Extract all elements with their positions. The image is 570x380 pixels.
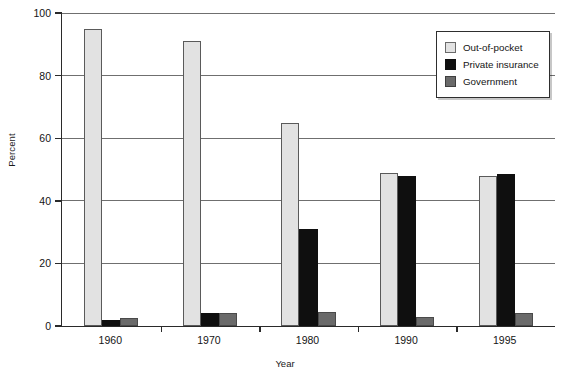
legend-item: Government: [445, 73, 539, 90]
x-axis-tick-label: 1980: [296, 334, 319, 346]
y-axis-tick-label: 100: [33, 7, 51, 19]
bar-1995-out-of-pocket: [479, 176, 497, 326]
y-axis-tick: [55, 138, 62, 139]
x-axis-tick: [259, 326, 260, 332]
y-axis-tick-label: 0: [45, 320, 51, 332]
gridline: [62, 138, 555, 139]
gridline: [62, 13, 555, 14]
bar-1995-private-insurance: [497, 174, 515, 326]
x-axis-tick: [456, 326, 457, 332]
bar-1980-government: [318, 312, 336, 326]
x-axis-tick: [358, 326, 359, 332]
bar-1995-government: [515, 313, 533, 326]
y-axis-tick: [55, 75, 62, 76]
bar-1970-private-insurance: [201, 313, 219, 326]
y-axis-tick-label: 20: [39, 257, 51, 269]
bar-1990-private-insurance: [398, 176, 416, 326]
chart-legend: Out-of-pocketPrivate insuranceGovernment: [436, 31, 550, 98]
x-axis-tick: [161, 326, 162, 332]
bar-1970-out-of-pocket: [183, 41, 201, 326]
y-axis-title: Percent: [6, 110, 17, 190]
x-axis-tick-label: 1990: [394, 334, 417, 346]
bar-1980-out-of-pocket: [281, 123, 299, 326]
y-axis-tick-label: 60: [39, 132, 51, 144]
legend-item: Out-of-pocket: [445, 39, 539, 56]
legend-swatch-icon: [445, 76, 456, 87]
x-axis-title: Year: [0, 358, 570, 369]
y-axis-tick-label: 80: [39, 70, 51, 82]
legend-item-label: Out-of-pocket: [463, 42, 522, 53]
bar-1990-government: [416, 317, 434, 326]
x-axis-tick-label: 1960: [99, 334, 122, 346]
x-axis-tick-label: 1995: [493, 334, 516, 346]
y-axis-tick-label: 40: [39, 195, 51, 207]
bar-1960-private-insurance: [102, 320, 120, 326]
legend-item-label: Private insurance: [463, 59, 539, 70]
bar-1980-private-insurance: [299, 229, 317, 326]
y-axis-tick: [55, 263, 62, 264]
bar-1990-out-of-pocket: [380, 173, 398, 326]
y-axis-tick: [55, 200, 62, 201]
legend-item: Private insurance: [445, 56, 539, 73]
bar-1970-government: [219, 313, 237, 326]
y-axis-tick: [55, 12, 62, 13]
legend-item-label: Government: [463, 76, 517, 87]
legend-swatch-icon: [445, 59, 456, 70]
bar-chart: Percent 020406080100 Year Out-of-pocketP…: [0, 0, 570, 380]
bar-1960-government: [120, 318, 138, 326]
y-axis-tick: [55, 325, 62, 326]
x-axis-tick-label: 1970: [197, 334, 220, 346]
legend-swatch-icon: [445, 42, 456, 53]
bar-1960-out-of-pocket: [84, 29, 102, 326]
